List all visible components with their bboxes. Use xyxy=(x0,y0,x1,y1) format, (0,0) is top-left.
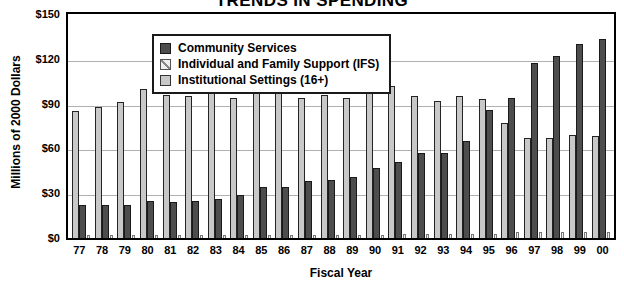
bar-institutional xyxy=(456,96,463,238)
bar-group xyxy=(522,14,545,238)
bar-institutional xyxy=(140,89,147,238)
x-tick-label: 93 xyxy=(432,244,455,260)
bar-institutional xyxy=(185,96,192,238)
x-tick-label: 84 xyxy=(227,244,250,260)
bar-community xyxy=(305,181,312,238)
x-tick-label: 95 xyxy=(478,244,501,260)
bar-ifs xyxy=(494,234,497,238)
x-tick-label: 96 xyxy=(500,244,523,260)
bar-community xyxy=(531,63,538,238)
bar-community xyxy=(486,110,493,238)
x-tick-label: 89 xyxy=(341,244,364,260)
bar-ifs xyxy=(607,232,610,238)
bar-group xyxy=(93,14,116,238)
bar-community xyxy=(418,153,425,238)
y-axis-ticks: $150$120$90$60$30$0 xyxy=(14,0,60,289)
x-tick-label: 91 xyxy=(387,244,410,260)
bar-ifs xyxy=(358,235,361,238)
bar-community xyxy=(576,44,583,238)
bar-group xyxy=(431,14,454,238)
chart-title: TRENDS IN SPENDING xyxy=(0,0,624,11)
bar-community xyxy=(124,205,131,238)
y-tick-label: $0 xyxy=(16,233,60,243)
bar-community xyxy=(599,39,606,238)
y-tick-label: $60 xyxy=(16,143,60,153)
bar-ifs xyxy=(290,235,293,238)
bar-group xyxy=(70,14,93,238)
x-tick-label: 88 xyxy=(318,244,341,260)
x-tick-label: 78 xyxy=(91,244,114,260)
bar-community xyxy=(553,56,560,238)
x-tick-label: 99 xyxy=(569,244,592,260)
x-tick-label: 98 xyxy=(546,244,569,260)
bar-ifs xyxy=(178,235,181,238)
y-tick-label: $120 xyxy=(16,54,60,64)
x-tick-label: 83 xyxy=(205,244,228,260)
bar-institutional xyxy=(275,87,282,238)
bar-group xyxy=(589,14,612,238)
bar-institutional xyxy=(524,138,531,238)
bar-institutional xyxy=(366,90,373,238)
bar-community xyxy=(441,153,448,238)
x-tick-label: 85 xyxy=(250,244,273,260)
bar-institutional xyxy=(592,136,599,238)
x-tick-label: 87 xyxy=(296,244,319,260)
bar-community xyxy=(282,187,289,238)
bar-ifs xyxy=(426,234,429,238)
bar-ifs xyxy=(87,235,90,238)
y-tick-label: $30 xyxy=(16,188,60,198)
bar-institutional xyxy=(230,98,237,238)
legend-label: Institutional Settings (16+) xyxy=(178,73,328,87)
x-tick-label: 94 xyxy=(455,244,478,260)
bar-community xyxy=(102,205,109,238)
y-tick-label: $150 xyxy=(16,9,60,19)
bar-ifs xyxy=(449,234,452,238)
bar-ifs xyxy=(403,234,406,238)
legend-item: Institutional Settings (16+) xyxy=(160,72,379,88)
bar-group xyxy=(409,14,432,238)
x-axis-title: Fiscal Year xyxy=(66,266,616,280)
bar-institutional xyxy=(253,92,260,238)
x-tick-label: 79 xyxy=(114,244,137,260)
bar-ifs xyxy=(584,232,587,238)
bar-community xyxy=(463,141,470,238)
bar-community xyxy=(260,187,267,238)
community-swatch xyxy=(160,43,171,54)
bar-group xyxy=(115,14,138,238)
bar-ifs xyxy=(155,235,158,238)
bar-ifs xyxy=(471,234,474,238)
bar-institutional xyxy=(388,86,395,238)
chart-legend: Community ServicesIndividual and Family … xyxy=(152,34,391,94)
x-tick-label: 00 xyxy=(591,244,614,260)
bar-ifs xyxy=(245,235,248,238)
bar-community xyxy=(215,199,222,238)
x-tick-label: 80 xyxy=(136,244,159,260)
bar-community xyxy=(79,205,86,238)
bar-institutional xyxy=(95,107,102,238)
x-tick-label: 82 xyxy=(182,244,205,260)
bar-institutional xyxy=(72,111,79,238)
legend-label: Individual and Family Support (IFS) xyxy=(178,57,379,71)
x-tick-label: 81 xyxy=(159,244,182,260)
x-tick-label: 77 xyxy=(68,244,91,260)
chart-figure: TRENDS IN SPENDING Millions of 2000 Doll… xyxy=(0,0,624,289)
bar-group xyxy=(544,14,567,238)
bar-institutional xyxy=(569,135,576,238)
bar-ifs xyxy=(132,235,135,238)
y-tick-label: $90 xyxy=(16,99,60,109)
bar-institutional xyxy=(546,138,553,238)
bar-institutional xyxy=(411,96,418,238)
bar-ifs xyxy=(539,232,542,238)
x-tick-label: 97 xyxy=(523,244,546,260)
bar-community xyxy=(237,195,244,238)
bar-institutional xyxy=(434,101,441,238)
bar-ifs xyxy=(561,232,564,238)
bar-ifs xyxy=(381,235,384,238)
bar-institutional xyxy=(479,99,486,238)
bar-institutional xyxy=(163,95,170,238)
x-tick-label: 92 xyxy=(409,244,432,260)
bar-community xyxy=(192,201,199,238)
bar-ifs xyxy=(336,235,339,238)
bar-community xyxy=(508,98,515,238)
bar-institutional xyxy=(343,98,350,238)
